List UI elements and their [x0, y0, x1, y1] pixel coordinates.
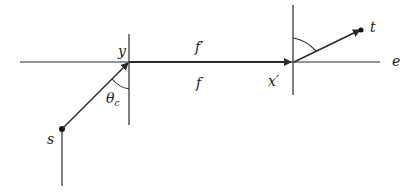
diagram-canvas: y f′ f x′ t e θc s [0, 0, 420, 196]
label-t: t [370, 19, 376, 35]
label-s: s [47, 131, 54, 147]
label-f: f [195, 75, 204, 91]
label-e: e [392, 53, 400, 69]
theta-subscript: c [114, 98, 119, 108]
label-y: y [117, 43, 127, 59]
arrow-s-to-y [62, 63, 128, 129]
label-theta: θc [106, 90, 119, 108]
angle-arc-right [293, 38, 316, 51]
label-f-prime: f′ [194, 39, 204, 55]
label-x-prime: x′ [268, 73, 280, 89]
arrow-x-prime-to-t [294, 30, 360, 62]
angle-arc-theta-c [112, 79, 129, 89]
point-t [359, 28, 364, 33]
